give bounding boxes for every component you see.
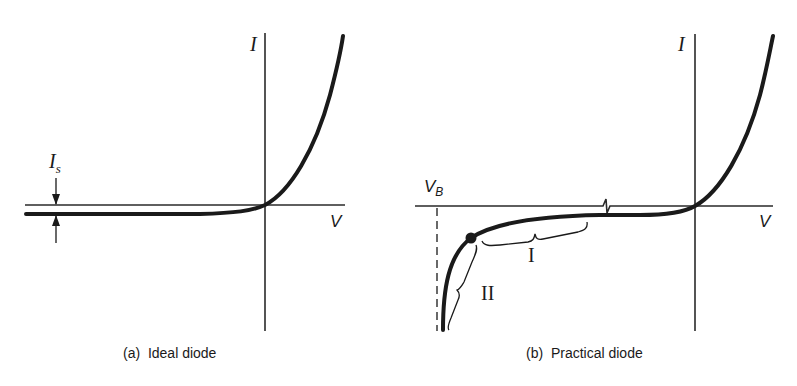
panel-a-current-label: I (249, 33, 258, 55)
knee-point-marker (466, 233, 477, 244)
breakdown-voltage-label: VB (424, 177, 443, 199)
arrowhead-down-icon (52, 194, 60, 205)
saturation-current-label: Is (48, 150, 61, 176)
panel-a-ideal-diode: Is I V (25, 33, 345, 331)
panel-b-voltage-label: V (759, 212, 772, 231)
region-ii-label: II (481, 282, 494, 304)
arrowhead-up-icon (52, 215, 60, 226)
panel-a-caption: (a) Ideal diode (123, 345, 216, 361)
panel-a-voltage-label: V (330, 212, 343, 231)
panel-b-caption: (b) Practical diode (526, 345, 643, 361)
panel-b-current-label: I (677, 33, 686, 55)
panel-b-practical-diode: I II VB I V (415, 33, 773, 331)
panel-b-voltage-axis-with-break (415, 199, 773, 213)
region-i-label: I (528, 244, 535, 266)
diode-iv-diagram: Is I V I II VB I V (0, 0, 797, 386)
panel-a-iv-curve (26, 36, 343, 214)
